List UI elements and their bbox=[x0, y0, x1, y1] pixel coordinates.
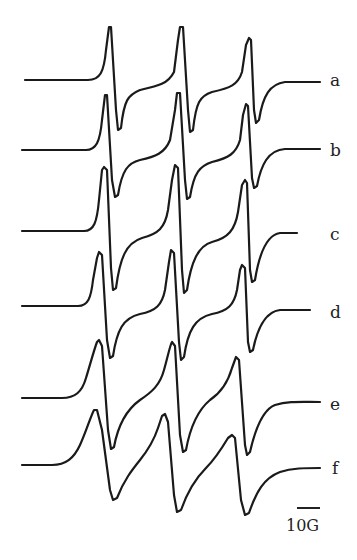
spectrum-trace-d bbox=[22, 250, 310, 360]
spectrum-trace-e bbox=[22, 340, 320, 455]
trace-label-c: c bbox=[330, 224, 340, 244]
trace-label-a: a bbox=[330, 70, 340, 90]
trace-label-d: d bbox=[330, 302, 341, 322]
epr-spectra-figure: a b c d e f 10G bbox=[0, 0, 357, 560]
trace-label-b: b bbox=[330, 140, 341, 160]
trace-label-e: e bbox=[330, 394, 340, 414]
spectrum-trace-f bbox=[22, 410, 320, 515]
spectrum-trace-c bbox=[22, 165, 297, 293]
scale-bar-label: 10G bbox=[286, 516, 319, 535]
trace-label-f: f bbox=[332, 458, 340, 478]
spectrum-trace-a bbox=[25, 27, 320, 132]
